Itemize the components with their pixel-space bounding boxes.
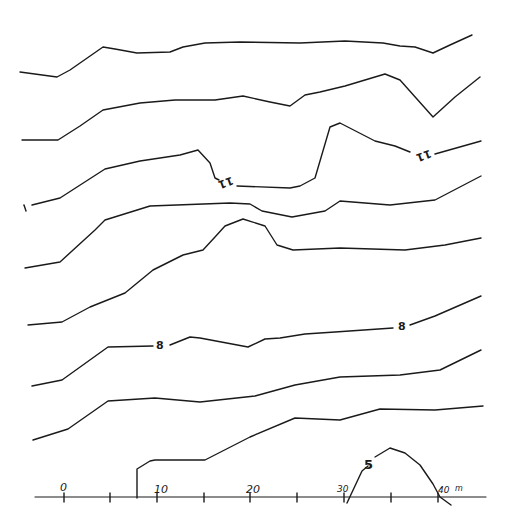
contour-diagram: 11 11 8 8 5 0 10 20 30 40 m — [0, 0, 509, 531]
contour-line-1 — [20, 35, 472, 77]
contour-label-8-left: 8 — [156, 340, 164, 351]
scale-label-40: 40 — [438, 486, 449, 495]
scale-unit-label: m — [455, 485, 463, 493]
contour-label-8-right: 8 — [398, 321, 406, 332]
contour-label-5: 5 — [364, 458, 373, 471]
contour-line-8 — [32, 346, 153, 386]
contour-line-8-c — [410, 296, 481, 325]
contour-line-11-c — [435, 141, 481, 154]
scale-label-20: 20 — [246, 484, 260, 495]
contour-line-11-b — [237, 123, 410, 188]
contour-line-8-b — [170, 328, 393, 347]
scale-label-10: 10 — [154, 484, 168, 495]
scale-label-0: 0 — [60, 482, 67, 493]
contour-line-5 — [28, 219, 481, 325]
contour-line-2 — [22, 74, 480, 140]
scale-label-30: 30 — [337, 485, 348, 494]
contour-line-11 — [32, 150, 219, 205]
contour-lines — [0, 0, 509, 531]
contour-line-1-tick — [24, 205, 26, 211]
contour-line-7 — [33, 350, 481, 440]
contour-line-6 — [137, 406, 483, 498]
